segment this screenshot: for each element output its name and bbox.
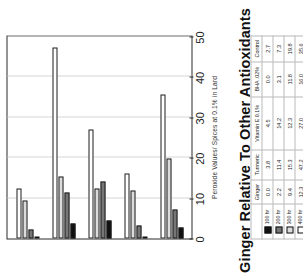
figure-canvas: Ginger Relative To Other Antioxidants 01… xyxy=(0,0,303,280)
figure: Ginger Relative To Other Antioxidants 01… xyxy=(0,0,303,280)
table-cell: 16.0 xyxy=(295,61,304,97)
table-cell: 7.3 xyxy=(273,36,284,62)
bar-groups xyxy=(7,36,191,238)
table-row: 400 hr12.347.227.016.035.6 xyxy=(295,36,304,239)
bar xyxy=(160,94,165,238)
bar xyxy=(100,181,105,238)
tick-label: 20 xyxy=(193,152,205,164)
plot-area xyxy=(6,35,192,239)
table-row: 100 hr0.03.84.50.02.7 xyxy=(262,36,273,239)
tick-mark xyxy=(189,117,193,118)
tick-mark xyxy=(189,198,193,199)
bar xyxy=(166,158,171,238)
table-row: 200 hr2.211.414.23.17.3 xyxy=(273,36,284,239)
bar xyxy=(58,176,63,238)
table-row-label: 100 hr xyxy=(262,204,273,239)
table-row: 300 hr9.415.312.311.819.8 xyxy=(284,36,295,239)
table-column-header: Control xyxy=(251,36,262,62)
legend-swatch xyxy=(286,226,293,233)
table-column-header: BHA .02% xyxy=(251,61,262,97)
bar-group xyxy=(160,36,183,238)
bar-group xyxy=(124,36,147,238)
table-cell: 19.8 xyxy=(284,36,295,62)
tick-mark xyxy=(189,157,193,158)
table-row-label: 200 hr xyxy=(273,204,284,239)
table-cell: 47.2 xyxy=(295,149,304,180)
bar-group xyxy=(88,36,111,238)
table-cell: 11.4 xyxy=(273,149,284,180)
bar xyxy=(22,200,27,238)
table-cell: 0.0 xyxy=(262,180,273,204)
tick-label: 10 xyxy=(193,192,205,204)
table-row-label: 300 hr xyxy=(284,204,295,239)
bar xyxy=(28,229,33,238)
bar xyxy=(106,220,111,238)
bar xyxy=(88,129,93,238)
table-column-header: Turmeric xyxy=(251,149,262,180)
table-column-header: Vitamin E 0.1% xyxy=(251,97,262,149)
x-axis-label: Peroxide Values/ Spices at 0.1% in Lard xyxy=(210,35,217,239)
table-cell: 2.7 xyxy=(262,36,273,62)
table-row-label: 400 hr xyxy=(295,204,304,239)
table-cell: 0.0 xyxy=(262,61,273,97)
bar xyxy=(52,47,57,238)
table-header-row: GingerTurmericVitamin E 0.1%BHA .02%Cont… xyxy=(251,36,262,239)
rotated-figure-wrapper: Ginger Relative To Other Antioxidants 01… xyxy=(0,0,303,280)
table-cell: 9.4 xyxy=(284,180,295,204)
table-cell: 27.0 xyxy=(295,97,304,149)
bar xyxy=(70,223,75,238)
bar xyxy=(178,227,183,238)
tick-mark xyxy=(189,76,193,77)
bar-group xyxy=(52,36,75,238)
tick-label: 50 xyxy=(193,31,205,43)
table-cell: 3.8 xyxy=(262,149,273,180)
bar xyxy=(124,173,129,238)
table-cell: 4.5 xyxy=(262,97,273,149)
table-column-header: Ginger xyxy=(251,180,262,204)
bar xyxy=(64,192,69,238)
table-cell: 2.2 xyxy=(273,180,284,204)
bar xyxy=(130,190,135,238)
bar xyxy=(16,188,21,238)
table-cell: 14.2 xyxy=(273,97,284,149)
tick-label: 40 xyxy=(193,71,205,83)
tick-mark xyxy=(189,238,193,239)
x-axis-ticks: 01020304050 xyxy=(193,35,209,239)
legend-swatch xyxy=(264,226,271,233)
bar xyxy=(172,209,177,238)
table-cell: 15.3 xyxy=(284,149,295,180)
tick-mark xyxy=(189,36,193,37)
bar-group xyxy=(16,36,39,238)
tick-label: 30 xyxy=(193,112,205,124)
table-cell: 3.1 xyxy=(273,61,284,97)
data-table: GingerTurmericVitamin E 0.1%BHA .02%Cont… xyxy=(250,35,303,239)
table-cell: 12.3 xyxy=(284,97,295,149)
bar xyxy=(142,236,147,238)
bar xyxy=(94,188,99,238)
table-cell: 11.8 xyxy=(284,61,295,97)
bar xyxy=(136,225,141,238)
legend-swatch xyxy=(297,226,303,233)
table-cell: 12.3 xyxy=(295,180,304,204)
table-corner-cell xyxy=(251,204,262,239)
table-cell: 35.6 xyxy=(295,36,304,62)
legend-swatch xyxy=(275,226,282,233)
bar xyxy=(34,236,39,238)
tick-label: 0 xyxy=(193,236,205,242)
